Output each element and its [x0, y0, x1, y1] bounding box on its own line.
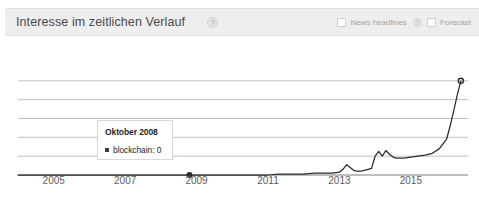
page-title: Interesse im zeitlichen Verlauf	[16, 15, 185, 29]
forecast-checkbox[interactable]	[427, 18, 436, 27]
news-headlines-question-mark-icon[interactable]: ?	[413, 18, 422, 27]
question-mark-icon[interactable]: ?	[207, 17, 218, 28]
news-headlines-checkbox[interactable]	[337, 18, 346, 27]
news-headlines-label: News headlines	[350, 18, 406, 27]
tooltip-series-marker-icon	[105, 148, 109, 152]
panel-header: Interesse im zeitlichen Verlauf ? News h…	[5, 8, 479, 36]
x-axis-tick-labels: 200520072009201120132015	[0, 175, 479, 195]
toggle-news-headlines[interactable]: News headlines ?	[337, 18, 421, 27]
chart-gridlines	[18, 81, 468, 156]
toggle-forecast[interactable]: Forecast	[427, 18, 471, 27]
forecast-label: Forecast	[440, 18, 471, 27]
x-axis-tick-label: 2011	[257, 175, 279, 186]
header-controls: News headlines ? Forecast	[337, 18, 471, 27]
x-axis-tick-label: 2009	[185, 175, 207, 186]
trends-interest-over-time-panel: Interesse im zeitlichen Verlauf ? News h…	[0, 0, 479, 202]
x-axis-tick-label: 2007	[114, 175, 136, 186]
series-line-blockchain	[18, 81, 461, 175]
tooltip-series-value: blockchain: 0	[113, 145, 161, 155]
x-axis-tick-label: 2013	[328, 175, 350, 186]
chart-tooltip: Oktober 2008 blockchain: 0	[97, 120, 173, 160]
tooltip-series-row: blockchain: 0	[105, 145, 165, 155]
x-axis-tick-label: 2005	[43, 175, 65, 186]
chart-area[interactable]: 200520072009201120132015	[0, 36, 479, 202]
x-axis-tick-label: 2015	[400, 175, 422, 186]
tooltip-title: Oktober 2008	[105, 127, 165, 137]
